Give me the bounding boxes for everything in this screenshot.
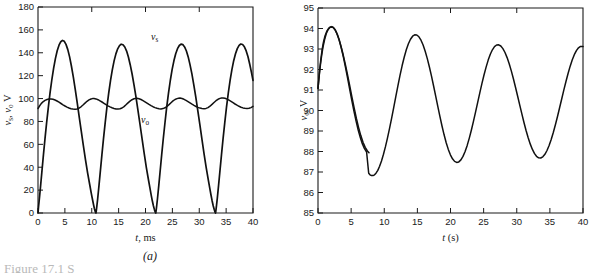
plot-b-x-ticks bbox=[318, 208, 583, 213]
svg-text:35: 35 bbox=[545, 216, 556, 227]
svg-text:10: 10 bbox=[379, 216, 390, 227]
plot-b-svg: 85 86 87 88 89 90 91 92 93 94 95 0 5 10 … bbox=[300, 0, 601, 249]
svg-text:0: 0 bbox=[315, 216, 320, 227]
plot-b-xlabel: t (s) bbox=[442, 232, 459, 244]
svg-text:40: 40 bbox=[248, 216, 259, 227]
svg-text:30: 30 bbox=[511, 216, 522, 227]
plot-a-y-ticklabels: 0 20 40 60 80 100 120 140 160 180 bbox=[18, 1, 34, 218]
chart-panel-a: 0 20 40 60 80 100 120 140 160 180 0 5 10… bbox=[0, 0, 300, 273]
caption-a: (a) bbox=[0, 249, 300, 264]
svg-text:5: 5 bbox=[348, 216, 353, 227]
svg-text:80: 80 bbox=[23, 116, 34, 127]
cropped-figure-caption-strip: Figure 17.1 S bbox=[0, 264, 601, 273]
curve-vo-b-start bbox=[318, 27, 369, 153]
svg-text:15: 15 bbox=[412, 216, 423, 227]
annotation-vo: vo bbox=[141, 114, 149, 127]
svg-text:20: 20 bbox=[140, 216, 151, 227]
svg-text:25: 25 bbox=[167, 216, 178, 227]
svg-text:10: 10 bbox=[86, 216, 97, 227]
svg-text:30: 30 bbox=[194, 216, 205, 227]
svg-text:91: 91 bbox=[303, 84, 314, 95]
svg-text:vs, vo V: vs, vo V bbox=[2, 94, 15, 125]
plot-a-svg: 0 20 40 60 80 100 120 140 160 180 0 5 10… bbox=[0, 0, 300, 249]
svg-text:40: 40 bbox=[578, 216, 589, 227]
svg-text:20: 20 bbox=[445, 216, 456, 227]
svg-text:5: 5 bbox=[62, 216, 67, 227]
plot-a-axes bbox=[38, 7, 253, 213]
svg-text:94: 94 bbox=[303, 23, 314, 34]
svg-text:160: 160 bbox=[18, 24, 34, 35]
svg-text:88: 88 bbox=[303, 146, 314, 157]
svg-text:t (s): t (s) bbox=[442, 232, 459, 244]
svg-text:93: 93 bbox=[303, 43, 314, 54]
cropped-figure-caption-text: Figure 17.1 S bbox=[4, 264, 74, 273]
svg-text:180: 180 bbox=[18, 1, 34, 12]
svg-text:87: 87 bbox=[303, 166, 314, 177]
svg-text:92: 92 bbox=[303, 64, 314, 75]
plot-b-axes bbox=[318, 8, 583, 213]
plot-a-x-ticklabels: 0 5 10 15 20 25 30 35 40 bbox=[35, 216, 258, 227]
plot-b-y-ticks bbox=[318, 8, 323, 213]
chart-panel-b: 85 86 87 88 89 90 91 92 93 94 95 0 5 10 … bbox=[300, 0, 601, 273]
plot-a-x-ticks bbox=[38, 208, 253, 213]
svg-text:20: 20 bbox=[23, 184, 34, 195]
plot-b-x-ticklabels: 0 5 10 15 20 25 30 35 40 bbox=[315, 216, 588, 227]
svg-text:vs: vs bbox=[151, 31, 158, 44]
figure-container: 0 20 40 60 80 100 120 140 160 180 0 5 10… bbox=[0, 0, 601, 273]
svg-text:86: 86 bbox=[303, 187, 314, 198]
svg-text:120: 120 bbox=[18, 70, 34, 81]
svg-text:40: 40 bbox=[23, 162, 34, 173]
annotation-vs: vs bbox=[151, 31, 158, 44]
svg-text:vo: vo bbox=[141, 114, 149, 127]
svg-text:t, ms: t, ms bbox=[135, 232, 155, 243]
svg-text:15: 15 bbox=[113, 216, 124, 227]
plot-a-xlabel: t, ms bbox=[135, 232, 155, 243]
svg-text:0: 0 bbox=[29, 207, 34, 218]
svg-text:89: 89 bbox=[303, 125, 314, 136]
svg-text:25: 25 bbox=[478, 216, 489, 227]
plot-b-top-ticks bbox=[384, 8, 517, 13]
plot-a-top-ticks bbox=[92, 7, 200, 12]
svg-text:100: 100 bbox=[18, 93, 34, 104]
svg-text:85: 85 bbox=[303, 207, 314, 218]
svg-text:95: 95 bbox=[303, 2, 314, 13]
svg-text:60: 60 bbox=[23, 139, 34, 150]
curve-vo-a bbox=[38, 98, 253, 109]
svg-text:35: 35 bbox=[221, 216, 232, 227]
curve-vo-b bbox=[318, 27, 583, 176]
plot-a-ylabel: vs, vo V bbox=[2, 94, 15, 125]
svg-text:140: 140 bbox=[18, 47, 34, 58]
svg-text:0: 0 bbox=[35, 216, 40, 227]
